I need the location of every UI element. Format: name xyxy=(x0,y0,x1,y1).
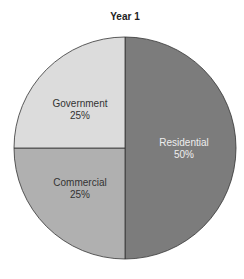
label-residential-pct: 50% xyxy=(174,149,194,160)
slice-government xyxy=(14,37,125,148)
label-residential-name: Residential xyxy=(159,137,208,148)
pie-chart: Residential 50% Commercial 25% Governmen… xyxy=(0,0,244,279)
label-government-name: Government xyxy=(52,98,107,109)
label-commercial-pct: 25% xyxy=(70,189,90,200)
label-government-pct: 25% xyxy=(70,110,90,121)
slice-residential xyxy=(125,37,236,259)
label-commercial-name: Commercial xyxy=(53,177,106,188)
slice-commercial xyxy=(14,148,125,259)
